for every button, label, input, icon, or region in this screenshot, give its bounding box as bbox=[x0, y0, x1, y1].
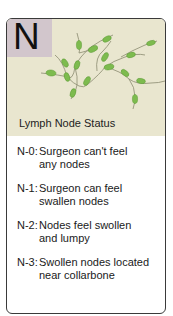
card-title: Lymph Node Status bbox=[19, 117, 115, 129]
stage-item-n3: N-3: Swollen nodes locatednear collarbon… bbox=[17, 256, 162, 282]
stage-list: N-0: Surgeon can't feelany nodes N-1: Su… bbox=[17, 145, 162, 293]
stage-code: N-1: bbox=[17, 182, 39, 208]
stage-code: N-3: bbox=[17, 256, 39, 282]
stage-item-n1: N-1: Surgeon can feelswallen nodes bbox=[17, 182, 162, 208]
stage-code: N-2: bbox=[17, 219, 39, 245]
stage-item-n2: N-2: Nodes feel swollenand lumpy bbox=[17, 219, 162, 245]
stage-item-n0: N-0: Surgeon can't feelany nodes bbox=[17, 145, 162, 171]
stage-description: Surgeon can't feelany nodes bbox=[39, 145, 162, 171]
stage-letter: N bbox=[13, 18, 40, 57]
stage-description: Nodes feel swollenand lumpy bbox=[39, 219, 162, 245]
lymph-node-card: N bbox=[6, 18, 166, 314]
stage-description: Swollen nodes locatednear collarbone bbox=[39, 256, 162, 282]
stage-description: Surgeon can feelswallen nodes bbox=[39, 182, 162, 208]
card-header: N bbox=[7, 19, 165, 136]
lymph-node-network-icon bbox=[41, 27, 165, 113]
stage-code: N-0: bbox=[17, 145, 39, 171]
